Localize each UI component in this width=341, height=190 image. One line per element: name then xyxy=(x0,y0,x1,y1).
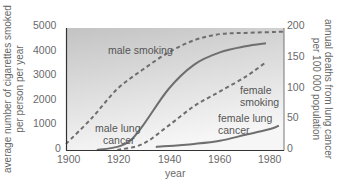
x-tick: 1920 xyxy=(107,153,130,165)
x-tick: 1980 xyxy=(258,153,281,165)
label-female-lung-line1: female lung xyxy=(218,112,272,124)
label-female-smoking-line2: smoking xyxy=(240,96,279,108)
label-female-smoking: female smoking xyxy=(240,84,279,108)
y-axis-label-right-line1: annual deaths from lung cancer xyxy=(322,0,334,184)
y-tick-left: 5000 xyxy=(33,19,56,31)
x-axis-label: year xyxy=(165,167,185,179)
y-tick-right: 50 xyxy=(287,111,299,123)
label-female-lung-cancer: female lung cancer xyxy=(218,112,272,136)
y-tick-left: 2000 xyxy=(33,93,56,105)
label-female-smoking-line1: female xyxy=(240,84,279,96)
y-axis-label-left: average number of cigarettes smoked per … xyxy=(2,0,28,184)
label-male-smoking: male smoking xyxy=(108,44,173,56)
y-tick-right: 150 xyxy=(287,50,305,62)
x-tick: 1940 xyxy=(158,153,181,165)
y-axis-label-right-line2: per 100 000 population xyxy=(310,0,322,184)
label-male-lung-line2: cancer xyxy=(103,134,141,146)
y-tick-right: 200 xyxy=(287,19,305,31)
y-axis-label-left-line1: average number of cigarettes smoked xyxy=(2,0,14,184)
label-male-lung-cancer: male lung cancer xyxy=(95,122,141,146)
y-axis-label-right: annual deaths from lung cancer per 100 0… xyxy=(308,0,334,184)
y-tick-left: 3000 xyxy=(33,68,56,80)
y-tick-left: 4000 xyxy=(33,44,56,56)
x-tick: 1960 xyxy=(208,153,231,165)
label-female-lung-line2: cancer xyxy=(218,124,272,136)
x-tick: 1900 xyxy=(57,153,80,165)
y-tick-right: 0 xyxy=(287,142,293,154)
label-male-lung-line1: male lung xyxy=(95,122,141,134)
y-tick-left: 1000 xyxy=(33,117,56,129)
y-tick-right: 100 xyxy=(287,81,305,93)
y-axis-label-left-line2: per person per year xyxy=(14,0,26,184)
